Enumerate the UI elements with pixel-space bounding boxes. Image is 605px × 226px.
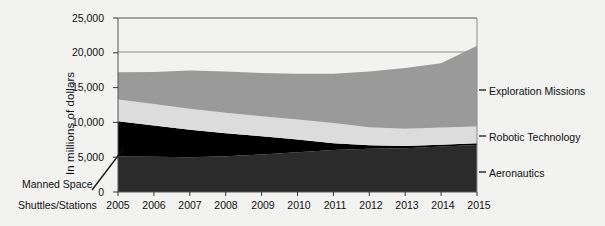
plot-area [0,0,605,226]
x-tick-marks [118,192,477,196]
right-label-ticks [479,90,486,172]
chart-figure: In millions of dollars 25,000 20,000 15,… [0,0,605,226]
grid-lines [118,18,477,52]
stacked-areas [118,46,477,192]
y-tick-marks [113,18,118,192]
